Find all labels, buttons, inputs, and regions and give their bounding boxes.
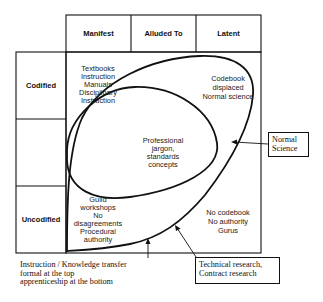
technical-research-arrowhead	[175, 225, 181, 231]
region-uncodified-manifest: Guild workshops No disagreements Procedu…	[74, 196, 122, 245]
region-line: authority	[74, 236, 122, 244]
callout-line: Science	[272, 144, 305, 153]
row-label-uncodified: Uncodified	[16, 186, 66, 253]
column-header-alluded-to: Alluded To	[131, 15, 196, 52]
region-line: Normal science	[203, 92, 254, 101]
normal-science-arrowhead	[231, 140, 237, 145]
callout-technical-research: Technical research, Contract research	[195, 257, 280, 284]
region-line: No authority	[206, 217, 250, 226]
callout-normal-science: Normal Science	[268, 132, 309, 157]
region-line: Codebook	[203, 74, 254, 83]
region-center: Professional jargon, standards concepts	[143, 137, 184, 169]
note-line: apprenticeship at the bottom	[20, 278, 127, 287]
knowledge-codification-diagram: Manifest Alluded To Latent Codified Unco…	[0, 0, 323, 302]
region-line: Gurus	[206, 226, 250, 235]
instruction-note: Instruction / Knowledge transfer formal …	[20, 261, 127, 287]
row-label-middle	[16, 119, 66, 186]
region-line: Instruction	[79, 97, 117, 105]
callout-line: Normal	[272, 135, 305, 144]
column-header-latent: Latent	[196, 15, 261, 52]
region-uncodified-latent: No codebook No authority Gurus	[206, 208, 250, 235]
region-line: No codebook	[206, 208, 250, 217]
callout-line: Contract research	[199, 270, 276, 279]
region-line: concepts	[143, 161, 184, 169]
region-codified-latent: Codebook displaced Normal science	[203, 74, 254, 101]
region-codified-manifest: Textbooks Instruction Manuals Disciplina…	[79, 65, 117, 105]
region-line: displaced	[203, 83, 254, 92]
column-header-manifest: Manifest	[66, 15, 131, 52]
row-label-codified: Codified	[16, 52, 66, 119]
